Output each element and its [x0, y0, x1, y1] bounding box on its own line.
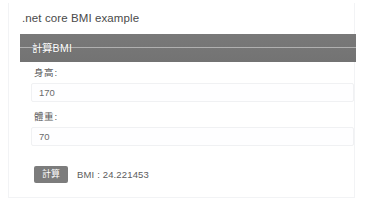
weight-input[interactable]: [31, 127, 354, 146]
panel-header-title: 計算BMI: [32, 40, 72, 55]
page-root: .net core BMI example 計算BMI 身高: 體重: 計算 B…: [0, 0, 369, 211]
weight-field-group: 體重:: [20, 109, 356, 146]
height-field-group: 身高:: [20, 65, 356, 102]
action-row: 計算 BMI : 24.221453: [20, 166, 149, 183]
bmi-result-text: BMI : 24.221453: [77, 169, 149, 180]
bmi-card: .net core BMI example 計算BMI 身高: 體重: 計算 B…: [8, 3, 355, 198]
weight-label: 體重:: [34, 109, 356, 123]
panel-header: 計算BMI: [20, 34, 356, 62]
height-label: 身高:: [34, 65, 356, 79]
page-title: .net core BMI example: [22, 12, 139, 24]
bmi-form: 身高: 體重:: [20, 65, 356, 153]
height-input[interactable]: [31, 83, 354, 102]
calculate-button[interactable]: 計算: [34, 166, 68, 183]
